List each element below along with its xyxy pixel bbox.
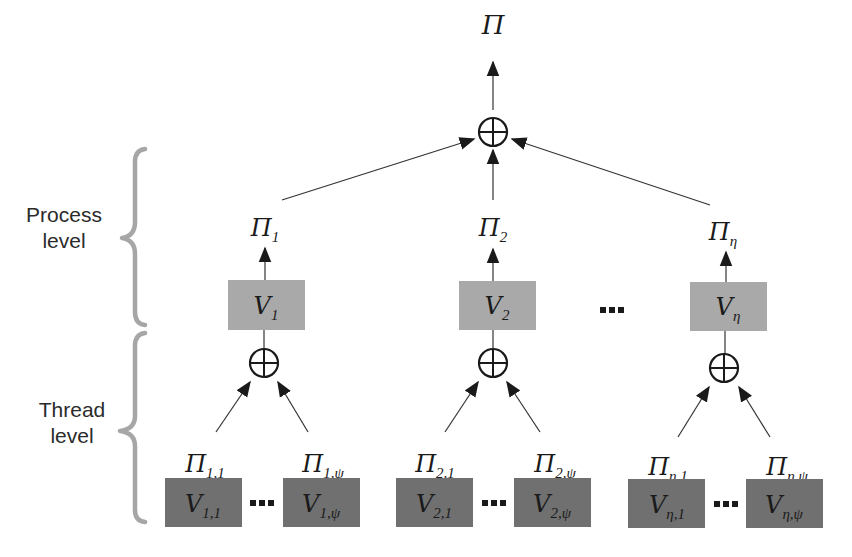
process-eta-result: Πη [708,218,737,249]
process-1-result: Π1 [250,214,279,245]
edge-pn-to-root [512,139,710,205]
thread-level-line2: level [50,424,93,447]
thread-level-line1: Thread [39,398,106,421]
process-2-result: Π2 [478,214,508,245]
thread-2-ellipsis [482,500,506,506]
thread-1-ellipsis [250,500,274,506]
process-ellipsis [600,307,624,313]
process-level-brace [122,149,145,325]
thread-2-psi: Π2,ψ V2,ψ [514,450,591,527]
thread-2-1-result: Π2,1 [414,450,455,481]
thread-1-1-result: Π1,1 [184,450,225,481]
process-level-label: Process level [26,203,102,252]
edge-p1-to-root [282,139,474,200]
thread-eta-ellipsis [714,501,738,507]
edge-t2psi-to-oplus2 [507,382,540,432]
thread-2-psi-result: Π2,ψ [533,450,576,481]
process-level-line2: level [42,229,85,252]
process-1-oplus-icon [250,349,278,377]
edge-t11-to-oplus1 [216,382,250,432]
process-1: Π1 V1 Π1,1 V1,1 Π1, [165,214,360,527]
process-level-line1: Process [26,203,102,226]
thread-2-1: Π2,1 V2,1 [396,450,473,527]
thread-1-psi: Π1,ψ V1,ψ [283,450,360,527]
process-eta: Πη Vη Πη,1 Vη,1 Πη,ψ [628,218,823,528]
reduction-diagram: Process level Thread level Π Π1 V1 [0,0,852,557]
process-2-oplus-icon [479,349,507,377]
edge-t1psi-to-oplus1 [278,382,308,432]
process-eta-oplus-icon [710,354,738,382]
thread-eta-1: Πη,1 Vη,1 [628,453,705,528]
thread-1-psi-result: Π1,ψ [301,450,344,481]
thread-eta-psi: Πη,ψ Vη,ψ [746,453,823,528]
thread-1-1: Π1,1 V1,1 [165,450,242,527]
root-symbol: Π [481,10,506,40]
thread-level-brace [120,333,145,522]
thread-level-label: Thread level [39,398,106,447]
edge-t21-to-oplus2 [445,382,478,432]
edge-tetapsi-to-oplus-eta [739,387,770,437]
edge-teta1-to-oplus-eta [678,387,709,437]
root-oplus-icon [479,118,507,146]
root-result: Π [481,10,506,40]
process-2: Π2 V2 Π2,1 V2,1 Π2,ψ [396,214,591,527]
